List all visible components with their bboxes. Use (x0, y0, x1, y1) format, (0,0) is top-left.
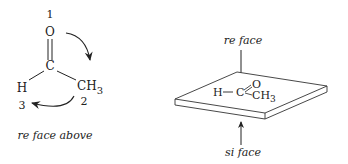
left-molecule: 1 O C H CH3 3 2 re face above (17, 8, 103, 142)
plate-carbon-atom: C (236, 86, 244, 99)
right-diagram: re face H C O CH3 si face (175, 34, 327, 159)
hydrogen-atom: H (17, 81, 27, 95)
plate-hydrogen-atom: H (213, 86, 223, 99)
arrow-1-to-2-icon (66, 33, 90, 60)
bond-c-h (29, 71, 44, 80)
si-face-label: si face (225, 146, 261, 159)
plane-plate (175, 72, 327, 119)
priority-1-label: 1 (47, 8, 54, 21)
arrow-2-to-3-icon (32, 96, 74, 106)
methyl-group: CH3 (77, 79, 103, 96)
diagram-canvas: 1 O C H CH3 3 2 re face above re face H … (0, 0, 348, 164)
bond-c-ch3 (57, 71, 76, 80)
priority-3-label: 3 (19, 99, 26, 112)
oxygen-atom: O (45, 25, 55, 39)
re-face-label: re face (224, 34, 263, 47)
left-caption: re face above (17, 129, 92, 142)
carbon-atom: C (45, 59, 54, 73)
priority-2-label: 2 (81, 95, 88, 108)
